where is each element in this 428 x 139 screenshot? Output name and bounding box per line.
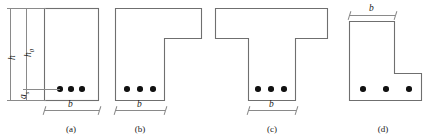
rebar-dot (360, 86, 366, 92)
rebar-dot (406, 86, 412, 92)
rebar-dot (79, 86, 85, 92)
diagram-canvas: h h0 as b (a) b (b (0, 0, 428, 139)
dimension-label-as: as (19, 92, 30, 99)
section-caption-c: (c) (252, 124, 292, 134)
dimension-label-b: b (68, 100, 73, 110)
dimension-tick (23, 8, 30, 9)
dimension-label-b: b (137, 100, 142, 110)
extension-line-bottom (10, 100, 46, 101)
dimension-label-h: h (8, 55, 18, 60)
dimension-line-b (349, 15, 395, 16)
extension-line-rebar (26, 89, 60, 90)
rebar-dot (137, 86, 143, 92)
rebar-dot (124, 86, 130, 92)
rebar-dot (255, 86, 261, 92)
dimension-tick (393, 11, 397, 20)
dimension-line-b (248, 110, 296, 111)
dimension-label-h0: h0 (24, 49, 35, 57)
rebar-dot (383, 86, 389, 92)
rebar-dot (268, 86, 274, 92)
dimension-tick (97, 106, 101, 115)
section-caption-b: (b) (120, 124, 160, 134)
rebar-dot (150, 86, 156, 92)
section-caption-a: (a) (51, 124, 91, 134)
dimension-tick (163, 106, 167, 115)
dimension-line-b (44, 110, 99, 111)
dimension-tick (294, 106, 298, 115)
section-caption-d: (d) (363, 124, 403, 134)
dimension-label-b: b (369, 4, 374, 14)
dimension-line-b (115, 110, 165, 111)
dimension-label-b: b (269, 100, 274, 110)
rebar-dot (68, 86, 74, 92)
rebar-dot (281, 86, 287, 92)
